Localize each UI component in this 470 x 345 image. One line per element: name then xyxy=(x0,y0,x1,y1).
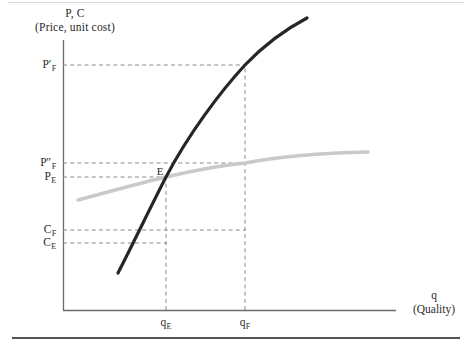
y-tick-c-e-sub: E xyxy=(51,242,56,251)
y-tick-p-f-dprime: P″F xyxy=(8,157,56,169)
figure-container: P, C (Price, unit cost) q (Quality) P′F xyxy=(0,0,470,345)
y-tick-p-f-dprime-sub: F xyxy=(52,162,57,171)
y-tick-c-e-base: C xyxy=(43,236,51,248)
data-curves xyxy=(78,18,368,273)
y-tick-p-f-prime-mark: ′ xyxy=(49,58,52,70)
y-tick-p-e-sub: E xyxy=(51,176,56,185)
x-tick-q-e-base: q xyxy=(161,316,167,328)
equilibrium-point-label: E xyxy=(157,166,164,177)
y-tick-c-f: CF xyxy=(8,224,56,236)
x-tick-q-e-sub: E xyxy=(167,322,172,331)
y-tick-p-f-dprime-mark: ″ xyxy=(46,156,51,168)
x-tick-q-e: qE xyxy=(161,317,172,329)
x-tick-q-f-sub: F xyxy=(246,322,251,331)
y-tick-p-f-prime-base: P xyxy=(43,58,49,70)
guide-lines xyxy=(63,65,246,310)
y-tick-p-e: PE xyxy=(8,171,56,183)
x-tick-q-f: qF xyxy=(240,317,250,329)
plot-area xyxy=(0,0,470,345)
unit-cost-curve xyxy=(78,152,368,200)
y-tick-p-f-prime-sub: F xyxy=(52,64,57,73)
y-tick-c-e: CE xyxy=(8,237,56,249)
x-tick-q-f-base: q xyxy=(240,316,246,328)
y-tick-c-f-base: C xyxy=(44,223,52,235)
y-tick-p-f-prime: P′F xyxy=(8,59,56,71)
price-curve xyxy=(118,18,307,273)
